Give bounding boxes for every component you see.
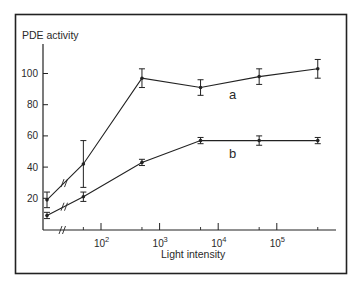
series-line-a <box>47 69 318 200</box>
data-point <box>82 162 86 166</box>
data-point <box>140 161 144 165</box>
x-ticks: 102103104105 <box>83 223 317 249</box>
x-tick-exponent: 4 <box>222 235 226 244</box>
x-tick-exponent: 2 <box>105 235 109 244</box>
data-point <box>257 139 261 143</box>
y-ticks: 20406080100 <box>21 68 48 204</box>
data-point <box>45 214 49 218</box>
data-point <box>199 86 203 90</box>
series-label-a: a <box>229 87 237 102</box>
data-point <box>82 195 86 199</box>
chart-frame <box>16 15 347 274</box>
x-tick-exponent: 3 <box>164 235 168 244</box>
x-tick-exponent: 5 <box>281 235 285 244</box>
x-axis-title: Light intensity <box>161 248 226 260</box>
chart: PDE activity Light intensity 20406080100… <box>0 0 360 288</box>
y-tick-label: 20 <box>27 193 39 204</box>
x-tick-label: 10 <box>94 238 106 249</box>
data-point <box>199 139 203 143</box>
y-tick-label: 60 <box>27 130 39 141</box>
data-point <box>140 76 144 80</box>
series-line-b <box>47 141 318 216</box>
y-tick-label: 100 <box>21 68 38 79</box>
x-tick-label: 10 <box>270 238 282 249</box>
y-axis-title: PDE activity <box>22 29 79 41</box>
series-label-b: b <box>229 146 236 161</box>
data-point <box>316 67 320 71</box>
data-point <box>45 198 49 202</box>
data-point <box>316 139 320 143</box>
x-tick-label: 10 <box>211 238 223 249</box>
x-tick-label: 10 <box>153 238 165 249</box>
y-tick-label: 80 <box>27 99 39 110</box>
series-group <box>44 59 321 218</box>
y-tick-label: 40 <box>27 162 39 173</box>
data-point <box>257 75 261 79</box>
